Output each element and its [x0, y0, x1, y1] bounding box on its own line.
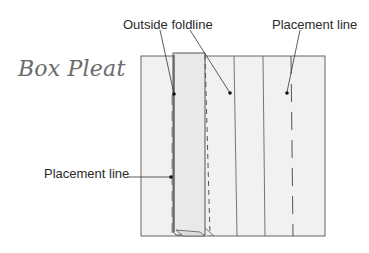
marker-dot	[228, 91, 232, 95]
fabric-panel	[141, 56, 325, 236]
box-pleat-diagram	[0, 0, 369, 253]
marker-dot	[169, 175, 173, 179]
marker-dot	[172, 92, 176, 96]
pleat-fold	[173, 53, 205, 235]
marker-dot	[285, 91, 289, 95]
